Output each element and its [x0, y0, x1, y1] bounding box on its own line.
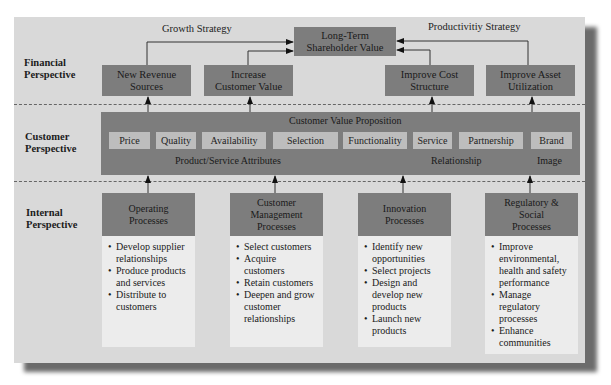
connector-arrows	[0, 0, 611, 385]
